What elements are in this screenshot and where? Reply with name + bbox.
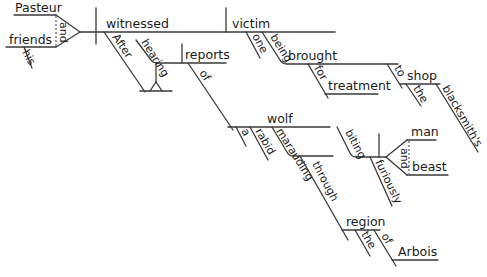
modifier-one: one	[246, 31, 271, 58]
participle-biting: biting furiously man beast and	[337, 124, 448, 206]
word-wolf: wolf	[267, 111, 293, 126]
word-pasteur: Pasteur	[15, 0, 63, 15]
compound-subject: Pasteur friends and his	[6, 0, 80, 68]
word-the1: the	[410, 83, 430, 105]
word-marauding: marauding	[273, 126, 316, 184]
word-of2: of	[378, 231, 395, 248]
word-and-subject: and	[57, 22, 70, 43]
word-beast: beast	[412, 159, 447, 174]
participle-being-brought: being brought for treatment to shop the …	[262, 32, 485, 152]
gerund-pedestal	[150, 82, 162, 91]
word-witnessed: witnessed	[106, 16, 169, 31]
word-of1: of	[197, 67, 214, 84]
word-man: man	[411, 124, 439, 139]
word-hearing: hearing	[138, 37, 171, 80]
word-blacksmiths: blacksmith's	[439, 83, 485, 149]
word-region: region	[346, 214, 386, 229]
word-and-object: and	[398, 148, 411, 169]
word-arbois: Arbois	[398, 244, 437, 259]
sentence-diagram: Pasteur friends and his witnessed victim…	[0, 0, 487, 277]
word-brought: brought	[288, 48, 337, 63]
word-shop: shop	[407, 68, 437, 83]
word-his: his	[19, 47, 38, 67]
word-treatment: treatment	[328, 78, 391, 93]
word-victim: victim	[232, 16, 270, 31]
word-reports: reports	[185, 47, 230, 62]
word-friends: friends	[9, 32, 52, 47]
word-to: to	[391, 63, 408, 79]
